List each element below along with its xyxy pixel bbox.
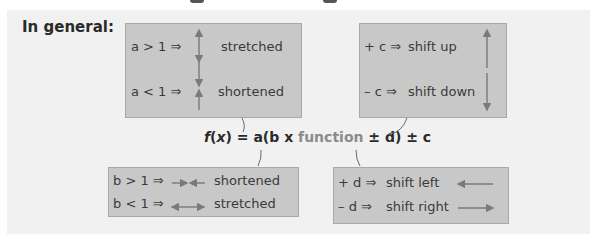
formula-x: x <box>217 129 226 145</box>
d-minus-result: shift right <box>386 199 449 214</box>
a-greater-result: stretched <box>221 39 283 54</box>
a-less-result: shortened <box>218 84 284 99</box>
d-minus-condition: – d ⇒ <box>338 199 372 214</box>
a-less-condition: a < 1 ⇒ <box>131 84 181 99</box>
a-parameter-box: a > 1 ⇒ stretched a < 1 ⇒ shortened <box>125 23 302 118</box>
formula-function-word: function <box>298 129 363 145</box>
c-minus-condition: – c ⇒ <box>364 84 397 99</box>
b-parameter-box: b > 1 ⇒ shortened b < 1 ⇒ stretched <box>108 167 299 217</box>
b-less-result: stretched <box>214 196 276 211</box>
c-parameter-box: + c ⇒ shift up – c ⇒ shift down <box>359 23 507 118</box>
c-plus-result: shift up <box>408 39 457 54</box>
c-minus-result: shift down <box>408 84 475 99</box>
formula-middle: = a(b x <box>232 129 298 145</box>
b-greater-result: shortened <box>214 173 280 188</box>
heading: In general: <box>22 18 114 36</box>
b-greater-condition: b > 1 ⇒ <box>113 173 164 188</box>
cropped-heading-glyph <box>323 0 337 3</box>
formula-end: ± d) ± c <box>363 129 431 145</box>
c-plus-condition: + c ⇒ <box>364 39 401 54</box>
cropped-heading-glyph <box>190 0 204 3</box>
d-plus-condition: + d ⇒ <box>338 175 376 190</box>
d-plus-result: shift left <box>386 175 439 190</box>
a-greater-condition: a > 1 ⇒ <box>131 39 181 54</box>
general-transformation-formula: f(x) = a(b x function ± d) ± c <box>204 129 431 145</box>
b-less-condition: b < 1 ⇒ <box>113 196 164 211</box>
d-parameter-box: + d ⇒ shift left – d ⇒ shift right <box>333 167 509 224</box>
